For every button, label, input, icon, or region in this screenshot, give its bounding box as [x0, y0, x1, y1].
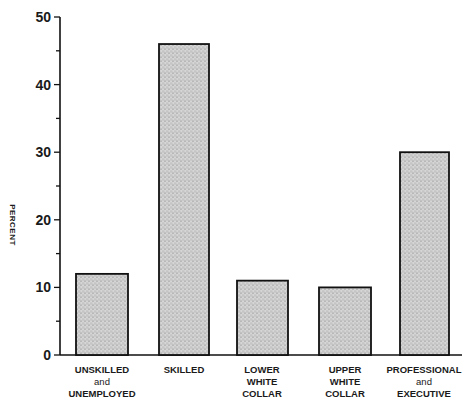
x-label-line: SKILLED [139, 364, 229, 376]
x-label-line: EXECUTIVE [379, 388, 469, 400]
y-tick-label: 10 [35, 279, 51, 295]
chart-svg: 01020304050 [0, 0, 472, 407]
x-label-professional: PROFESSIONAL and EXECUTIVE [379, 364, 469, 400]
x-label-unskilled: UNSKILLED and UNEMPLOYED [57, 364, 147, 400]
bar-chart: 01020304050 PERCENT UNSKILLED and UNEMPL… [0, 0, 472, 407]
x-label-skilled: SKILLED [139, 364, 229, 376]
x-label-line: and [379, 376, 469, 388]
x-label-line: UNSKILLED [57, 364, 147, 376]
bar [237, 281, 288, 355]
bar [159, 44, 209, 355]
bar [76, 274, 128, 355]
bar [400, 152, 449, 355]
x-label-lower-white-collar: LOWER WHITE COLLAR [217, 364, 307, 400]
x-label-line: UNEMPLOYED [57, 388, 147, 400]
bars [76, 44, 449, 355]
y-tick-label: 0 [43, 347, 51, 363]
x-label-line: LOWER [217, 364, 307, 376]
y-tick-label: 20 [35, 212, 51, 228]
y-tick-label: 50 [35, 9, 51, 25]
bar [319, 287, 371, 355]
y-tick-label: 30 [35, 144, 51, 160]
x-label-line: WHITE [300, 376, 390, 388]
y-tick-label: 40 [35, 77, 51, 93]
x-label-line: and [57, 376, 147, 388]
x-label-line: UPPER [300, 364, 390, 376]
y-axis-label: PERCENT [8, 200, 17, 250]
x-label-line: COLLAR [217, 388, 307, 400]
x-label-upper-white-collar: UPPER WHITE COLLAR [300, 364, 390, 400]
x-label-line: PROFESSIONAL [379, 364, 469, 376]
y-tick-labels: 01020304050 [35, 9, 51, 363]
x-label-line: COLLAR [300, 388, 390, 400]
x-label-line: WHITE [217, 376, 307, 388]
